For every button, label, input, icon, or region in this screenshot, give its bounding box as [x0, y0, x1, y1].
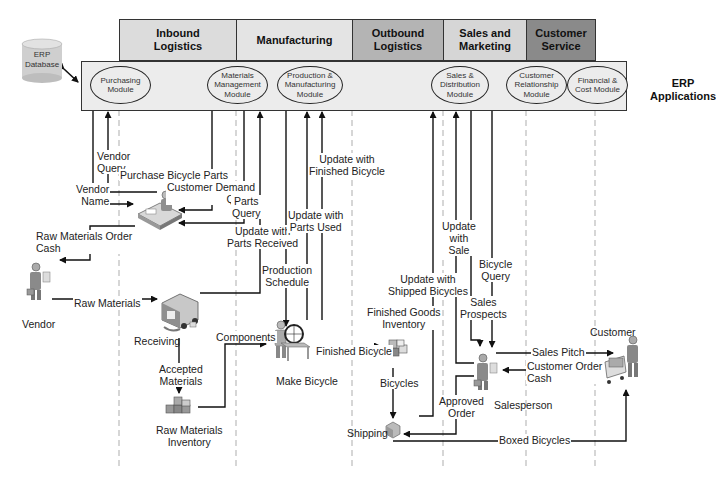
label-boxed-bicycles: Boxed Bicycles	[498, 434, 571, 446]
erp-database-label: ERP Database	[22, 50, 62, 70]
actor-salesperson-label: Salesperson	[493, 399, 553, 411]
activity-label: Outbound	[372, 27, 425, 40]
vendor-person-icon	[27, 263, 50, 300]
erp-apps-line: Applications	[650, 90, 716, 103]
label-customer-order-cash: Customer OrderCash	[526, 360, 603, 384]
activity-customer-service: CustomerService	[526, 19, 596, 61]
module-label: Financial &	[575, 76, 620, 86]
module-label: Purchasing	[100, 76, 140, 86]
salesperson-icon	[474, 354, 497, 390]
label-raw-materials: Raw Materials	[73, 297, 142, 309]
actor-bicycles-label: Bicycles	[379, 377, 420, 389]
module-label: Module	[100, 85, 140, 95]
receiving-truck-icon	[162, 294, 198, 331]
label-components: Components	[215, 331, 277, 343]
module-label: Module	[214, 90, 261, 100]
activity-label: Manufacturing	[257, 34, 333, 47]
database-label-line: Database	[22, 60, 62, 70]
module-label: Module	[514, 90, 558, 100]
module-label: Cost Module	[575, 85, 620, 95]
database-label-line: ERP	[22, 50, 62, 60]
label-bicycle-query: BicycleQuery	[478, 258, 513, 282]
erp-applications-label: ERP Applications	[650, 77, 716, 103]
module-materials-management[interactable]: MaterialsManagementModule	[207, 66, 268, 104]
actor-make-bicycle-label: Make Bicycle	[275, 375, 339, 387]
activity-label: Marketing	[459, 40, 511, 53]
label-sales-pitch: Sales Pitch	[531, 346, 586, 358]
actor-receiving-label: Receiving	[133, 335, 181, 347]
actor-vendor-label: Vendor	[21, 318, 56, 330]
label-accepted-materials: AcceptedMaterials	[158, 363, 204, 387]
activity-label: Logistics	[154, 40, 202, 53]
actor-finished-goods-inventory-label: Finished GoodsInventory	[366, 306, 442, 330]
module-label: Sales &	[440, 71, 480, 81]
label-raw-materials-order-cash: Raw Materials OrderCash	[35, 230, 133, 254]
raw-materials-boxes-icon	[166, 397, 190, 413]
module-label: Production &	[285, 71, 336, 81]
activity-inbound-logistics: InboundLogistics	[119, 19, 237, 61]
module-label: Management	[214, 80, 261, 90]
label-parts-query: PartsQuery	[231, 195, 262, 219]
label-update-parts-used: Update withParts Used	[287, 209, 344, 233]
actor-raw-materials-inventory-label: Raw MaterialsInventory	[155, 424, 224, 448]
activity-label: Customer	[535, 27, 586, 40]
module-financial-cost[interactable]: Financial &Cost Module	[567, 66, 628, 104]
module-label: Distribution	[440, 80, 480, 90]
label-production-schedule: ProductionSchedule	[261, 264, 313, 288]
module-purchasing[interactable]: PurchasingModule	[90, 66, 151, 104]
module-label: Module	[440, 90, 480, 100]
actor-shipping-label: Shipping	[346, 427, 389, 439]
module-label: Materials	[214, 71, 261, 81]
module-label: Customer	[514, 71, 558, 81]
module-label: Manufacturing	[285, 80, 336, 90]
module-sales-distribution[interactable]: Sales &DistributionModule	[431, 66, 489, 104]
activity-label: Service	[535, 40, 586, 53]
erp-apps-line: ERP	[650, 77, 716, 90]
bicycle-maker-icon	[275, 321, 310, 361]
label-finished-bicycle: Finished Bicycle	[315, 345, 393, 357]
actor-customer-label: Customer	[589, 326, 637, 338]
activity-label: Inbound	[154, 27, 202, 40]
activity-label: Logistics	[372, 40, 425, 53]
label-update-shipped-bicycles: Update withShipped Bicycles	[387, 273, 469, 297]
module-label: Module	[285, 90, 336, 100]
label-update-with-sale: UpdatewithSale	[441, 220, 477, 256]
module-customer-relationship[interactable]: CustomerRelationshipModule	[506, 66, 567, 104]
label-approved-order: ApprovedOrder	[438, 395, 485, 419]
label-vendor-name: VendorName	[75, 183, 110, 207]
activity-manufacturing: Manufacturing	[236, 19, 353, 61]
module-production-manufacturing[interactable]: Production &ManufacturingModule	[277, 66, 343, 104]
activity-outbound-logistics: OutboundLogistics	[352, 19, 444, 61]
customer-cart-icon	[605, 336, 638, 384]
label-purchase-bicycle-parts: Purchase Bicycle Parts	[119, 169, 229, 181]
activity-label: Sales and	[459, 27, 511, 40]
label-update-finished-bicycle: Update withFinished Bicycle	[308, 153, 386, 177]
label-sales-prospects: SalesProspects	[459, 296, 508, 320]
activity-sales-marketing: Sales andMarketing	[443, 19, 527, 61]
module-label: Relationship	[514, 80, 558, 90]
